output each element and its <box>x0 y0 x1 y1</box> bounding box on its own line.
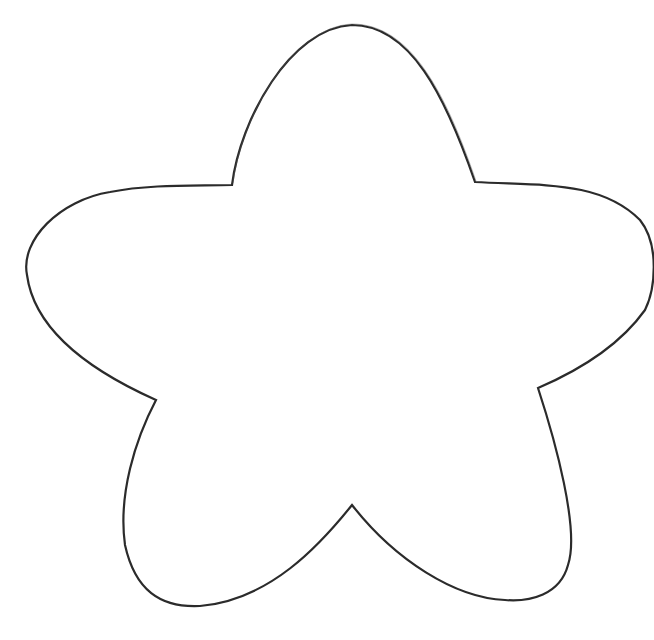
drawing-canvas: Hand-drawn outline of a rounded five-pet… <box>0 0 654 640</box>
flower-outline-icon <box>26 24 654 606</box>
flower-outline-path <box>26 25 654 606</box>
flower-outline-svg <box>0 0 654 640</box>
